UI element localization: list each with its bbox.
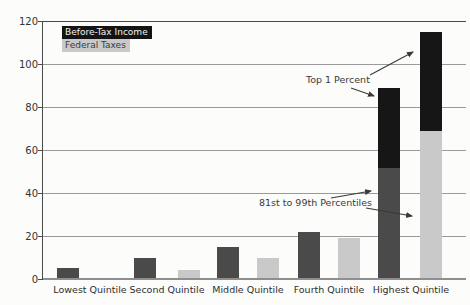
arrow-top1-to-income-bar bbox=[351, 88, 374, 96]
legend-item-federal-taxes: Federal Taxes bbox=[62, 39, 130, 52]
gridline-100 bbox=[43, 64, 466, 65]
segment-before-tax-income bbox=[134, 258, 156, 280]
annotation-top-1-percent: Top 1 Percent bbox=[306, 74, 370, 85]
y-tick-label-0: 0 bbox=[10, 274, 38, 285]
gridline-40 bbox=[43, 193, 466, 194]
segment-81st-99th-federal-taxes bbox=[420, 131, 442, 279]
bar-before-tax-income-second-quintile bbox=[134, 258, 156, 280]
bar-before-tax-income-highest-quintile bbox=[378, 88, 400, 279]
gridline-80 bbox=[43, 107, 466, 108]
segment-before-tax-income bbox=[217, 247, 239, 279]
bar-before-tax-income-middle-quintile bbox=[217, 247, 239, 279]
y-tick-label-120: 120 bbox=[10, 16, 38, 27]
segment-81st-99th-before-tax-income bbox=[378, 168, 400, 279]
y-axis-line bbox=[42, 21, 44, 280]
segment-before-tax-income bbox=[298, 232, 320, 279]
bar-federal-taxes-highest-quintile bbox=[420, 32, 442, 279]
x-label-highest-quintile: Highest Quintile bbox=[361, 284, 461, 296]
bar-federal-taxes-middle-quintile bbox=[257, 258, 279, 280]
annotation-81st-to-99th-percentiles: 81st to 99th Percentiles bbox=[259, 197, 372, 208]
y-tick-label-20: 20 bbox=[10, 231, 38, 242]
y-tick-label-60: 60 bbox=[10, 145, 38, 156]
segment-federal-taxes bbox=[338, 238, 360, 279]
x-axis-line bbox=[43, 278, 466, 280]
income-tax-bar-chart: 020406080100120Lowest QuintileSecond Qui… bbox=[0, 0, 470, 305]
gridline-60 bbox=[43, 150, 466, 151]
gridline-20 bbox=[43, 236, 466, 237]
segment-federal-taxes bbox=[257, 258, 279, 280]
y-tick-label-80: 80 bbox=[10, 102, 38, 113]
legend-item-before-tax-income: Before-Tax Income bbox=[62, 26, 152, 39]
legend: Before-Tax Income Federal Taxes bbox=[62, 26, 152, 52]
gridline-120 bbox=[43, 21, 466, 22]
y-tick-label-40: 40 bbox=[10, 188, 38, 199]
y-tick-label-100: 100 bbox=[10, 59, 38, 70]
segment-top-1-percent-before-tax-income bbox=[378, 88, 400, 169]
bar-before-tax-income-fourth-quintile bbox=[298, 232, 320, 279]
bar-federal-taxes-fourth-quintile bbox=[338, 238, 360, 279]
segment-top-1-percent-federal-taxes bbox=[420, 32, 442, 131]
